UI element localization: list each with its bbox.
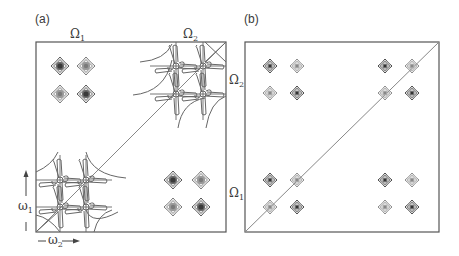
diagonal-peaks-b-top-right (378, 59, 419, 100)
omega1-top-label: Ω1 (70, 28, 85, 45)
omega1-side-label: Ω1 (229, 187, 244, 204)
panel-b (245, 42, 439, 232)
omega2-axis-label: ω2 (48, 234, 63, 251)
cross-peaks-a-bottom-right (164, 171, 210, 216)
cross-peaks-b-top-left (263, 59, 304, 100)
cross-peaks-b-bottom-right (378, 173, 419, 214)
omega2-top-label: Ω2 (183, 28, 198, 45)
panel-a-label: (a) (35, 13, 50, 25)
diagonal-multiplet-omega2 (133, 42, 226, 128)
figure-canvas (0, 0, 459, 256)
omega1-axis-label: ω1 (18, 200, 33, 217)
diagonal-peaks-b-bottom-left (263, 173, 304, 214)
omega2-side-label: Ω2 (229, 74, 244, 91)
cross-peaks-a-top-left (51, 57, 95, 103)
panel-b-label: (b) (244, 13, 259, 25)
diagonal-multiplet-omega1 (36, 152, 126, 232)
panel-a (24, 42, 227, 244)
